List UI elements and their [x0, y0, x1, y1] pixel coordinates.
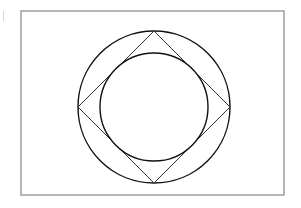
inscribed-square [78, 31, 230, 183]
diagram-frame [21, 11, 284, 195]
geometry-diagram [0, 0, 301, 208]
inner-circle [100, 53, 208, 161]
outer-circle [78, 31, 230, 183]
